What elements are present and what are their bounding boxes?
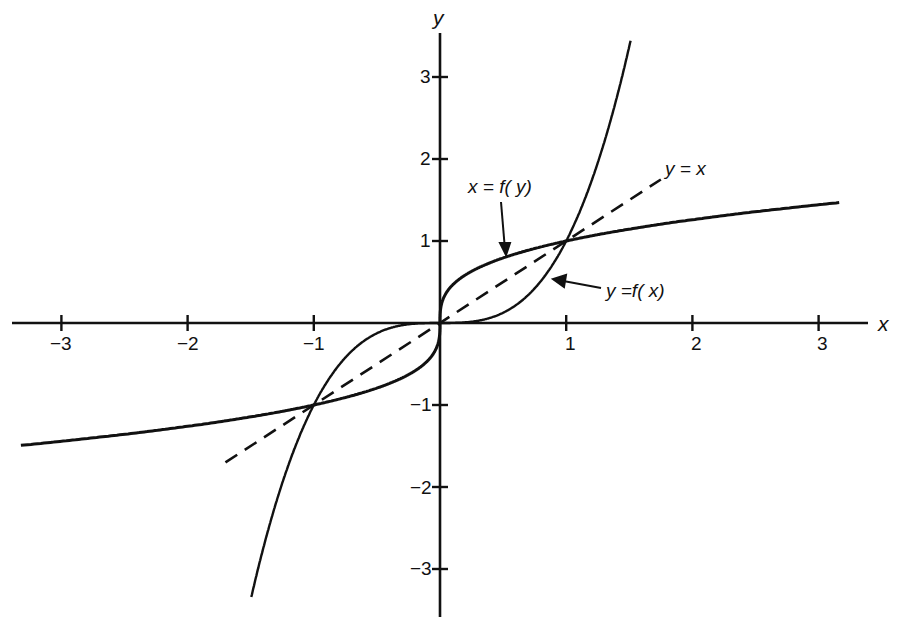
y-tick-label: 1: [420, 230, 431, 252]
annotation-function-label: y =f( x): [606, 280, 665, 302]
chart-figure: y x −3 −2 −1 1 2 3 3 2 1 −1 −2 −3 x = f(…: [0, 0, 906, 628]
y-tick-label: −1: [410, 394, 432, 416]
annotation-inverse-label: x = f( y): [468, 176, 532, 198]
arrow-head-icon: [500, 243, 510, 255]
y-axis-label: y: [433, 6, 444, 30]
x-tick-label: −2: [177, 333, 199, 355]
arrow-head-icon: [553, 275, 566, 287]
x-tick-label: 2: [691, 333, 702, 355]
x-tick-label: −1: [303, 333, 325, 355]
y-tick-label: 3: [420, 66, 431, 88]
x-tick-label: −3: [50, 333, 72, 355]
y-tick-label: 2: [420, 148, 431, 170]
y-tick-label: −2: [410, 477, 432, 499]
x-tick-label: 1: [565, 333, 576, 355]
x-axis-label: x: [878, 312, 889, 336]
annotation-identity-label: y = x: [665, 158, 706, 180]
x-tick-label: 3: [817, 333, 828, 355]
identity-line-dashed: [225, 180, 660, 463]
plot-area: [0, 0, 906, 628]
y-tick-label: −3: [410, 558, 432, 580]
